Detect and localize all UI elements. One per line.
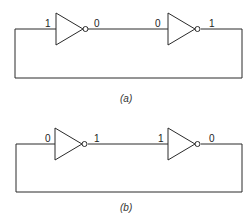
circuit-b: 0 1 1 0 (b) [16, 128, 242, 213]
feedback-wire-a [15, 29, 242, 78]
inverter-icon [168, 128, 200, 160]
circuit-a: 1 0 0 1 (a) [15, 13, 242, 104]
inverter-icon [56, 13, 88, 45]
gate1-input-label: 1 [45, 18, 51, 29]
gate2-output-label: 0 [209, 133, 215, 144]
gate1-output-label: 0 [94, 18, 100, 29]
feedback-wire-b [16, 144, 242, 192]
gate2-output-label: 1 [209, 18, 215, 29]
gate2-input-label: 1 [158, 133, 164, 144]
gate1-input-label: 0 [45, 133, 51, 144]
gate1-output-label: 1 [94, 133, 100, 144]
inverter-icon [168, 13, 200, 45]
gate2-input-label: 0 [155, 18, 161, 29]
inverter-icon [55, 128, 87, 160]
diagram-canvas: 1 0 0 1 (a) 0 1 1 0 (b) [0, 0, 252, 218]
caption-b: (b) [120, 202, 132, 213]
caption-a: (a) [120, 93, 132, 104]
